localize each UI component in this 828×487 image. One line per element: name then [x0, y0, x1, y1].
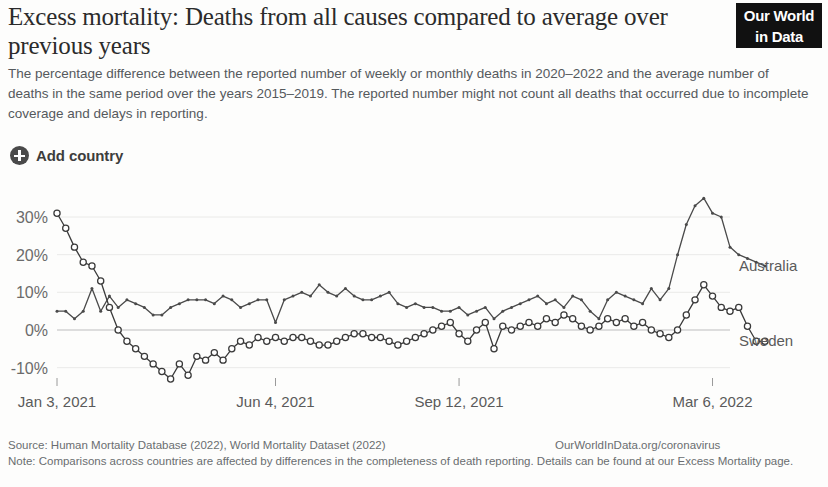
data-point-marker — [125, 298, 128, 301]
data-point-marker — [431, 306, 434, 309]
data-point-marker — [185, 372, 191, 378]
data-point-marker — [615, 291, 618, 294]
data-point-marker — [456, 331, 462, 337]
data-point-marker — [169, 306, 172, 309]
data-point-marker — [143, 306, 146, 309]
data-point-marker — [344, 287, 347, 290]
chart-footer: Source: Human Mortality Database (2022),… — [8, 437, 820, 469]
data-point-marker — [605, 316, 611, 322]
data-point-marker — [501, 310, 504, 313]
owid-url-link[interactable]: OurWorldInData.org/coronavirus — [555, 437, 720, 453]
data-point-marker — [64, 310, 67, 313]
data-point-marker — [702, 197, 705, 200]
data-point-marker — [484, 306, 487, 309]
data-point-marker — [650, 287, 653, 290]
owid-logo-line1: Our World — [736, 5, 822, 26]
data-point-marker — [265, 298, 268, 301]
data-point-marker — [360, 331, 366, 337]
data-point-marker — [526, 319, 532, 325]
owid-logo: Our World in Data — [736, 3, 822, 48]
y-axis-tick-label: 30% — [16, 209, 48, 226]
data-point-marker — [641, 302, 644, 305]
data-point-marker — [290, 334, 296, 340]
data-point-marker — [309, 295, 312, 298]
data-point-marker — [554, 298, 557, 301]
data-point-marker — [737, 253, 740, 256]
data-point-marker — [491, 346, 497, 352]
data-point-marker — [117, 306, 120, 309]
data-point-marker — [606, 298, 609, 301]
data-point-marker — [160, 313, 163, 316]
data-point-marker — [54, 210, 60, 216]
data-point-marker — [510, 306, 513, 309]
data-point-marker — [440, 310, 443, 313]
data-point-marker — [377, 334, 383, 340]
data-point-marker — [108, 295, 111, 298]
data-point-marker — [571, 295, 574, 298]
data-point-marker — [648, 327, 654, 333]
data-point-marker — [692, 297, 698, 303]
data-point-marker — [736, 304, 742, 310]
data-point-marker — [597, 317, 600, 320]
data-point-marker — [545, 302, 548, 305]
data-point-marker — [316, 342, 322, 348]
data-point-marker — [248, 302, 251, 305]
data-point-marker — [230, 298, 233, 301]
data-point-marker — [519, 302, 522, 305]
data-point-marker — [361, 298, 364, 301]
data-point-marker — [458, 306, 461, 309]
data-point-marker — [194, 353, 200, 359]
data-point-marker — [667, 287, 670, 290]
data-point-marker — [552, 319, 558, 325]
data-point-marker — [150, 361, 156, 367]
data-point-marker — [676, 253, 679, 256]
data-point-marker — [580, 298, 583, 301]
series-label-australia: Australia — [739, 257, 798, 274]
data-point-marker — [666, 334, 672, 340]
data-point-marker — [596, 323, 602, 329]
data-point-marker — [90, 287, 93, 290]
data-point-marker — [482, 319, 488, 325]
data-point-marker — [272, 334, 278, 340]
data-point-marker — [281, 338, 287, 344]
data-point-marker — [493, 317, 496, 320]
data-point-marker — [388, 291, 391, 294]
data-point-marker — [631, 323, 637, 329]
data-point-marker — [264, 338, 270, 344]
data-point-marker — [475, 310, 478, 313]
data-point-marker — [246, 342, 252, 348]
data-point-marker — [211, 350, 217, 356]
data-point-marker — [56, 310, 59, 313]
add-country-button[interactable]: Add country — [10, 146, 123, 165]
source-text: Source: Human Mortality Database (2022),… — [8, 437, 386, 453]
data-point-marker — [325, 342, 331, 348]
data-point-marker — [414, 302, 417, 305]
data-point-marker — [351, 331, 357, 337]
line-chart[interactable]: 30%20%10%0%-10%Jan 3, 2021Jun 4, 2021Sep… — [0, 175, 828, 430]
data-point-marker — [720, 216, 723, 219]
data-point-marker — [99, 310, 102, 313]
data-point-marker — [430, 327, 436, 333]
data-point-marker — [500, 323, 506, 329]
data-point-marker — [168, 376, 174, 382]
data-point-marker — [613, 319, 619, 325]
x-axis-tick-label: Sep 12, 2021 — [414, 393, 503, 410]
data-point-marker — [71, 244, 77, 250]
y-axis-tick-label: 0% — [25, 322, 48, 339]
data-point-marker — [300, 291, 303, 294]
data-point-marker — [291, 295, 294, 298]
data-point-marker — [561, 312, 567, 318]
data-point-marker — [694, 204, 697, 207]
data-point-marker — [195, 298, 198, 301]
data-point-marker — [404, 338, 410, 344]
data-point-marker — [421, 331, 427, 337]
data-point-marker — [466, 313, 469, 316]
data-point-marker — [423, 306, 426, 309]
data-point-marker — [326, 291, 329, 294]
data-point-marker — [587, 327, 593, 333]
data-point-marker — [124, 338, 130, 344]
data-point-marker — [370, 298, 373, 301]
add-country-label: Add country — [36, 147, 123, 164]
data-point-marker — [274, 321, 277, 324]
data-point-marker — [335, 295, 338, 298]
